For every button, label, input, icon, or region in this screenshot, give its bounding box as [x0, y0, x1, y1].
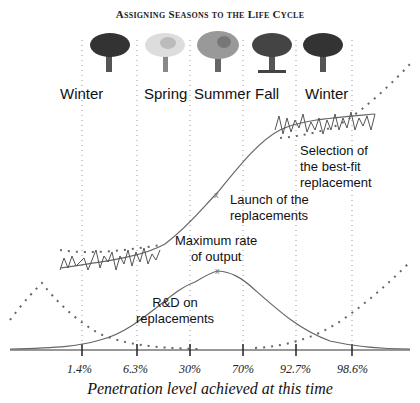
svg-text:x: x: [215, 266, 220, 276]
annotation-rnd: R&D on replacements: [136, 295, 214, 327]
season-label-summer: Summer: [194, 85, 251, 102]
season-label-fall: Fall: [255, 85, 279, 102]
tick-label: 70%: [232, 362, 254, 377]
bare-tree-icon: [303, 33, 343, 72]
tick-label: 1.4%: [67, 362, 92, 377]
annotation-launch: Launch of the replacements: [230, 192, 309, 224]
season-label-winter: Winter: [60, 85, 103, 102]
autumn-tree-icon: [252, 33, 292, 73]
season-label-winter-2: Winter: [305, 85, 348, 102]
x-axis-label: Penetration level achieved at this time: [0, 380, 420, 398]
tick-label: 98.6%: [337, 362, 368, 377]
annotation-max-rate: Maximum rate of output: [175, 233, 257, 265]
bare-tree-icon: [90, 33, 130, 72]
svg-text:x: x: [214, 190, 219, 200]
tick-label: 30%: [179, 362, 201, 377]
tick-label: 6.3%: [123, 362, 148, 377]
annotation-selection: Selection of the best-fit replacement: [300, 143, 372, 191]
season-label-spring: Spring: [144, 85, 187, 102]
tick-label: 92.7%: [280, 362, 311, 377]
chaotic-fluctuations-left: [60, 248, 160, 270]
life-cycle-diagram: x x: [0, 0, 420, 403]
leafy-tree-icon: [197, 31, 239, 72]
blossom-tree-icon: [145, 33, 185, 72]
